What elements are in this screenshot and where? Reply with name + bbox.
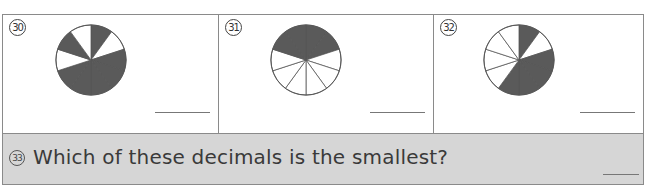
- question-number-30: 30: [9, 19, 26, 36]
- answer-blank-32[interactable]: [580, 112, 635, 113]
- question-number-31: 31: [225, 19, 242, 36]
- question-33-row: 33 Which of these decimals is the smalle…: [3, 133, 643, 184]
- question-30-panel: 30: [3, 15, 218, 133]
- pie-chart-30: [54, 23, 128, 97]
- question-31-panel: 31: [218, 15, 433, 133]
- pie-chart-31: [269, 23, 343, 97]
- question-number-33: 33: [9, 150, 25, 166]
- worksheet: 30 31 32 33 Which of these decimals is t…: [2, 14, 644, 185]
- pie-questions-row: 30 31 32: [3, 15, 643, 133]
- pie-chart-32: [482, 23, 556, 97]
- question-32-panel: 32: [433, 15, 643, 133]
- question-number-32: 32: [440, 19, 457, 36]
- question-33-text: Which of these decimals is the smallest?: [33, 145, 448, 169]
- answer-blank-31[interactable]: [370, 112, 425, 113]
- answer-blank-33[interactable]: [603, 174, 639, 175]
- answer-blank-30[interactable]: [155, 112, 210, 113]
